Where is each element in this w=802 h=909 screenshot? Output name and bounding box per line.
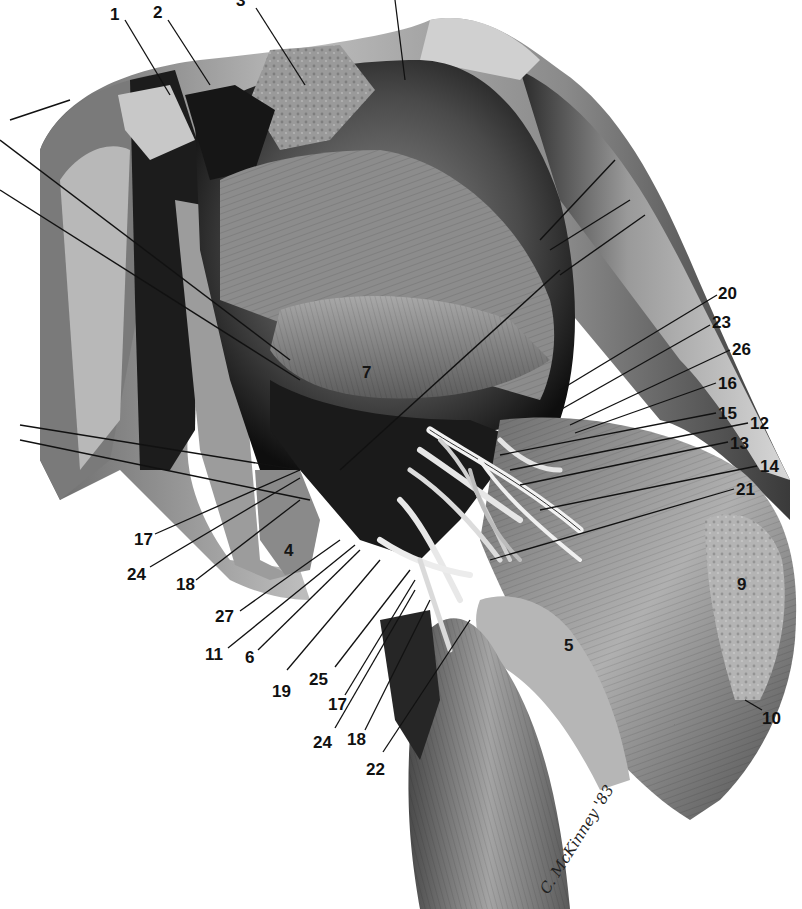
label-14: 14 bbox=[760, 457, 779, 476]
label-22: 22 bbox=[366, 760, 385, 779]
label-25: 25 bbox=[309, 670, 328, 689]
label-7: 7 bbox=[362, 363, 371, 382]
label-21: 21 bbox=[736, 480, 755, 499]
label-24-left: 24 bbox=[127, 565, 146, 584]
label-26: 26 bbox=[732, 340, 751, 359]
label-2: 2 bbox=[153, 3, 162, 22]
label-24-lower: 24 bbox=[313, 733, 332, 752]
label-9: 9 bbox=[737, 575, 746, 594]
label-16: 16 bbox=[718, 374, 737, 393]
label-4: 4 bbox=[284, 541, 294, 560]
label-18-left: 18 bbox=[176, 575, 195, 594]
label-15: 15 bbox=[718, 404, 737, 423]
label-19: 19 bbox=[272, 682, 291, 701]
label-23: 23 bbox=[712, 313, 731, 332]
label-10: 10 bbox=[762, 709, 781, 728]
label-1: 1 bbox=[110, 5, 119, 24]
label-17-left: 17 bbox=[134, 530, 153, 549]
label-20: 20 bbox=[718, 284, 737, 303]
label-13: 13 bbox=[730, 434, 749, 453]
label-11: 11 bbox=[205, 645, 223, 664]
label-6: 6 bbox=[245, 648, 254, 667]
anatomical-illustration: 1 2 3 7 20 23 26 16 15 12 13 14 21 17 24… bbox=[0, 0, 802, 909]
label-12: 12 bbox=[750, 414, 769, 433]
label-27: 27 bbox=[215, 607, 234, 626]
label-5: 5 bbox=[564, 636, 573, 655]
label-3: 3 bbox=[236, 0, 245, 10]
label-17-lower: 17 bbox=[328, 695, 347, 714]
label-18-lower: 18 bbox=[347, 730, 366, 749]
